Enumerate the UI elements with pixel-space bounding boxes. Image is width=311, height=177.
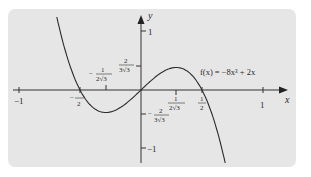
- x-tick-label-neg-inv-2r3-num: 1: [101, 66, 105, 74]
- x-axis-arrow-icon: [279, 87, 288, 94]
- x-axis-label: x: [284, 94, 290, 105]
- x-tick-label-neg-half-den: 2: [77, 100, 81, 108]
- x-tick-label-pos-inv-2r3-num: 1: [174, 95, 178, 103]
- x-tick-label-pos1: 1: [260, 100, 265, 110]
- y-tick-label-pos1: 1: [148, 27, 153, 37]
- x-tick-label-pos-inv-2r3-den: 2√3: [169, 104, 180, 112]
- x-tick-label-pos-half-den: 2: [200, 104, 204, 112]
- y-tick-label-neg-2-3r3-num: 2: [159, 107, 163, 115]
- y-tick-label-neg-2-3r3-sign: −: [148, 110, 152, 118]
- function-label: f(x) = −8x³ + 2x: [200, 67, 256, 77]
- y-axis-label: y: [147, 10, 153, 21]
- y-axis-arrow-icon: [138, 15, 145, 24]
- y-tick-label-neg1: −1: [147, 144, 157, 154]
- function-plot: x y −1 − 2 − 1 2√3 1 2√3 1 2 1 1 2 3√3 −…: [0, 0, 311, 177]
- x-tick-label-neg-inv-2r3-sign: −: [89, 70, 93, 78]
- x-tick-label-neg1: −1: [14, 96, 24, 106]
- x-tick-label-neg-inv-2r3-den: 2√3: [96, 75, 107, 83]
- y-tick-label-pos-2-3r3-num: 2: [124, 57, 128, 65]
- y-tick-label-pos-2-3r3-den: 3√3: [119, 66, 130, 74]
- y-tick-label-neg-2-3r3-den: 3√3: [154, 116, 165, 124]
- x-tick-label-pos-half-num: 1: [200, 95, 204, 103]
- x-tick-label-neg-half-sign: −: [70, 94, 74, 102]
